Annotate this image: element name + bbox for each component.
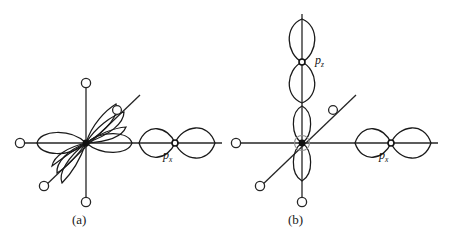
panel-b-px-label: px [379, 148, 388, 164]
panel-a-ligand-upper-right [113, 106, 122, 115]
panel-b-ligand-upper-right [329, 106, 338, 115]
panel-b-pz-label-sub: z [321, 60, 324, 69]
panel-b-ligand-lower-left [255, 181, 264, 190]
panel-a-ligand-left [15, 138, 24, 147]
panel-b-ligand-left [231, 138, 240, 147]
panel-a-ligand-top [81, 78, 90, 87]
panel-a-px-node [172, 140, 178, 146]
panel-b-pz-label: pz [315, 53, 324, 69]
panel-b-px-node [388, 140, 394, 146]
panel-a-ligand-bottom [81, 197, 90, 206]
panel-b-caption: (b) [288, 212, 303, 228]
figure-background [0, 0, 449, 239]
panel-a-ligand-lower-left [39, 181, 48, 190]
panel-a-px-label-sub: x [169, 155, 172, 164]
orbital-overlap-figure [0, 0, 449, 239]
panel-b-px-label-sub: x [385, 155, 388, 164]
panel-b-ligand-bottom [297, 197, 306, 206]
panel-b-central-atom [299, 140, 306, 147]
panel-a-central-atom [83, 140, 90, 147]
panel-a-px-label: px [163, 148, 172, 164]
panel-a-caption: (a) [72, 212, 86, 228]
panel-b-pz-node [299, 59, 305, 65]
